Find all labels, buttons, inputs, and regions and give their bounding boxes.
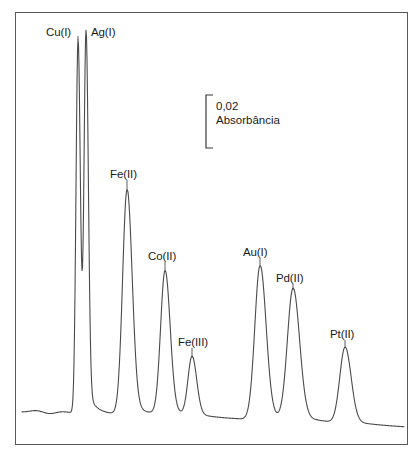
peak-label-feiii: Fe(III)	[178, 336, 208, 348]
peak-label-feii: Fe(II)	[110, 168, 137, 180]
peak-label-aui: Au(I)	[243, 246, 267, 258]
scale-bar-value: 0,02	[216, 99, 280, 113]
plot-frame	[15, 12, 408, 445]
peak-label-cui: Cu(I)	[46, 26, 71, 38]
peak-label-ptii: Pt(II)	[330, 328, 354, 340]
chromatogram-figure: 0,02 Absorbância Cu(I)Ag(I)Fe(II)Co(II)F…	[0, 0, 420, 458]
peak-label-coii: Co(II)	[148, 250, 176, 262]
scale-bar-unit: Absorbância	[216, 113, 280, 127]
peak-label-agi: Ag(I)	[91, 26, 115, 38]
peak-label-pdii: Pd(II)	[276, 272, 304, 284]
scale-bar-annotation: 0,02 Absorbância	[216, 99, 280, 127]
